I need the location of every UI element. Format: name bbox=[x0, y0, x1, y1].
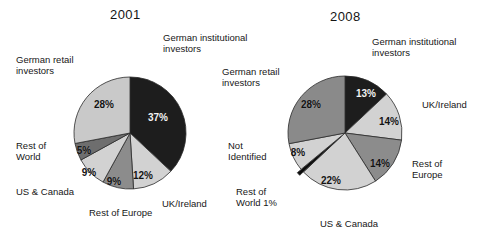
value-2008-not-identified: 8% bbox=[291, 147, 305, 158]
label-2008-not-identified: Not Identified bbox=[228, 140, 276, 162]
label-2008-rest-of-europe: Rest of Europe bbox=[412, 158, 458, 180]
value-2008-rest-of-europe: 14% bbox=[370, 158, 390, 169]
value-2008-institutional: 13% bbox=[356, 88, 376, 99]
label-2008-retail: German retail investors bbox=[222, 66, 294, 88]
pie-slice bbox=[288, 76, 345, 144]
label-2008-uk-ireland: UK/Ireland bbox=[422, 99, 467, 110]
label-2008-us-canada: US & Canada bbox=[320, 218, 378, 229]
label-2008-rest-of-world: Rest of World 1% bbox=[236, 186, 290, 208]
chart-canvas: 2001 German institutional investors Germ… bbox=[0, 0, 480, 243]
value-2008-uk-ireland: 14% bbox=[379, 116, 399, 127]
label-2008-institutional: German institutional investors bbox=[372, 36, 478, 58]
value-2008-retail: 28% bbox=[301, 99, 321, 110]
value-2008-us-canada: 22% bbox=[321, 175, 341, 186]
